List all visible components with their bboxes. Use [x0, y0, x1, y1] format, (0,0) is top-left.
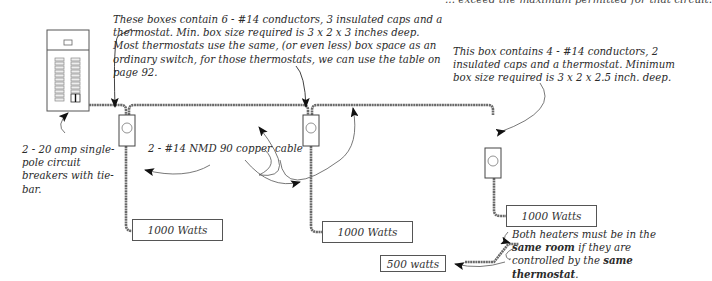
heater-4-label: 500 watts: [380, 255, 446, 272]
arrow-cable-mid: [245, 160, 300, 184]
note-same-room: Both heaters must be in the same room if…: [512, 228, 682, 281]
heater-1-label: 1000 Watts: [132, 219, 223, 241]
note-same-room-text-1: Both heaters must be in the: [512, 229, 656, 240]
arrow-to-box3: [500, 83, 545, 132]
note-four-conductor-box: This box contains 4 - #14 conductors, 2 …: [453, 45, 683, 85]
heater-2-label: 1000 Watts: [322, 221, 413, 243]
electrical-panel-icon: [47, 30, 89, 111]
arrow-cable-left: [145, 165, 210, 174]
note-breakers: 2 - 20 amp single-pole circuit breakers …: [22, 143, 120, 196]
heater-3-label: 1000 Watts: [506, 205, 597, 227]
thermostat-box-3: [485, 148, 501, 178]
note-same-room-bold-1: same room: [512, 241, 575, 253]
note-six-conductor-boxes: These boxes contain 6 - #14 conductors, …: [113, 13, 448, 79]
note-same-room-text-3: .: [575, 269, 578, 280]
arrow-to-breakers: [61, 113, 68, 133]
note-cable: 2 - #14 NMD 90 copper cable: [148, 142, 328, 155]
arrow-to-1000w-3: [504, 232, 510, 243]
thermostat-box-1: [119, 115, 135, 146]
